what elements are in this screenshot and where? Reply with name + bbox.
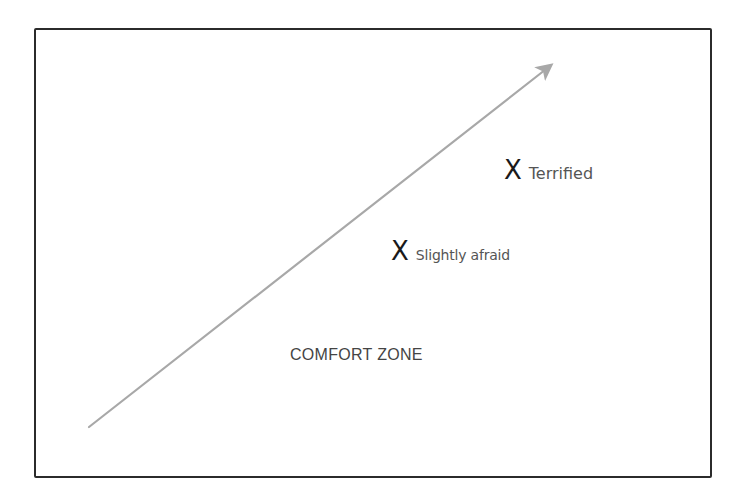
- x-mark-icon: X: [504, 157, 522, 183]
- terrified-label: Terrified: [529, 166, 593, 182]
- slightly-afraid-label: Slightly afraid: [416, 248, 510, 262]
- marker-slightly-afraid: X Slightly afraid: [391, 238, 510, 264]
- diagram-frame: [34, 28, 712, 478]
- x-mark-icon: X: [391, 238, 409, 264]
- comfort-zone-label: COMFORT ZONE: [290, 346, 423, 364]
- marker-terrified: X Terrified: [504, 157, 593, 183]
